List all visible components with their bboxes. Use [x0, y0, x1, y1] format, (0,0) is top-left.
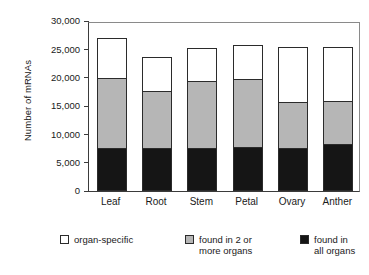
y-axis-tick-label: 20,000 [51, 73, 84, 83]
legend-swatch-white [60, 235, 69, 244]
stacked-bar[interactable] [323, 47, 353, 192]
stacked-bar[interactable] [187, 48, 217, 191]
legend-item[interactable]: found in 2 or more organs [185, 234, 252, 256]
bar-group [278, 47, 308, 191]
bar-group [187, 48, 217, 191]
bar-segment [98, 148, 126, 190]
bar-segment [98, 39, 126, 78]
stacked-bar[interactable] [97, 38, 127, 191]
y-axis-tick-label: 5,000 [56, 158, 84, 168]
stacked-bar[interactable] [278, 47, 308, 191]
plot-area: 05,00010,00015,00020,00025,00030,000 [88, 22, 360, 192]
legend-item[interactable]: organ-specific [60, 234, 133, 245]
bar-segment [234, 147, 262, 190]
legend-swatch-gray [185, 235, 194, 244]
bar-segment [188, 148, 216, 190]
bar-segment [234, 46, 262, 80]
x-axis-label: Anther [307, 196, 367, 207]
stacked-bar[interactable] [233, 45, 263, 191]
bar-segment [143, 91, 171, 148]
legend-label: organ-specific [74, 234, 133, 245]
legend-item[interactable]: found in all organs [300, 234, 355, 256]
chart-legend: organ-specificfound in 2 or more organsf… [60, 234, 360, 268]
legend-label: found in all organs [314, 234, 355, 256]
bar-segment [279, 102, 307, 148]
bar-group [233, 45, 263, 191]
bar-segment [279, 148, 307, 190]
y-axis-tick-label: 0 [75, 186, 84, 196]
y-axis-tick-mark [84, 21, 89, 22]
bar-segment [324, 144, 352, 190]
bar-segment [279, 48, 307, 102]
bar-series-container [89, 23, 359, 191]
bar-group [142, 57, 172, 191]
legend-label: found in 2 or more organs [199, 234, 252, 256]
bar-segment [324, 101, 352, 144]
legend-swatch-black [300, 235, 309, 244]
chart-figure: Number of mRNAs 05,00010,00015,00020,000… [0, 0, 369, 275]
bar-group [323, 47, 353, 192]
bar-segment [143, 58, 171, 91]
bar-segment [188, 49, 216, 81]
stacked-bar[interactable] [142, 57, 172, 191]
bar-segment [324, 48, 352, 102]
y-axis-title: Number of mRNAs [22, 21, 33, 181]
y-axis-tick-label: 10,000 [51, 130, 84, 140]
y-axis-tick-label: 15,000 [51, 101, 84, 111]
bar-group [97, 38, 127, 191]
bar-segment [143, 148, 171, 190]
bar-segment [98, 78, 126, 148]
y-axis-tick-label: 30,000 [51, 16, 84, 26]
y-axis-tick-label: 25,000 [51, 45, 84, 55]
bar-segment [234, 79, 262, 147]
bar-segment [188, 81, 216, 147]
